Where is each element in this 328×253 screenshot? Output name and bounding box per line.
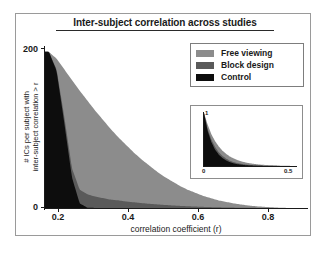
legend-label-block-design: Block design <box>221 60 274 70</box>
y-tick-label-200: 200 <box>23 44 38 54</box>
x-tick-label-0.2: 0.2 <box>52 212 65 222</box>
title-underline <box>56 30 274 31</box>
legend-item-free-viewing[interactable]: Free viewing <box>196 47 299 59</box>
inset-x-tick-label-0: 0 <box>202 168 205 174</box>
inset-x-axis-line <box>203 166 297 167</box>
legend-swatch-block-design <box>196 62 214 69</box>
legend-swatch-free-viewing <box>196 50 214 57</box>
legend: Free viewing Block design Control <box>190 43 304 87</box>
x-tick-label-0.4: 0.4 <box>122 212 135 222</box>
inset-area-chart <box>204 113 296 166</box>
title-block: Inter-subject correlation across studies <box>56 17 274 31</box>
x-tick-label-0.8: 0.8 <box>262 212 275 222</box>
y-axis-label-line2: inter-subject correlation > r <box>31 52 40 202</box>
page-title: Inter-subject correlation across studies <box>56 17 274 29</box>
inset-panel: 1 0 0.5 <box>190 105 303 179</box>
legend-label-free-viewing: Free viewing <box>221 48 273 58</box>
area-series-control <box>204 113 296 166</box>
x-tick-label-0.6: 0.6 <box>192 212 205 222</box>
legend-swatch-control <box>196 74 214 81</box>
figure-root: Inter-subject correlation across studies… <box>0 0 328 253</box>
legend-item-block-design[interactable]: Block design <box>196 59 299 71</box>
inset-y-tick-label-1: 1 <box>205 110 208 116</box>
y-axis-label-line1: # ICs per subject with <box>22 52 31 202</box>
legend-item-control[interactable]: Control <box>196 71 299 83</box>
y-axis-label: # ICs per subject with inter-subject cor… <box>22 52 40 202</box>
inset-x-tick-label-0.5: 0.5 <box>284 168 292 174</box>
legend-label-control: Control <box>221 72 251 82</box>
x-axis-label: correlation coefficient (r) <box>45 224 307 234</box>
inset-plot-area <box>204 113 296 166</box>
y-tick-label-0: 0 <box>33 202 38 212</box>
